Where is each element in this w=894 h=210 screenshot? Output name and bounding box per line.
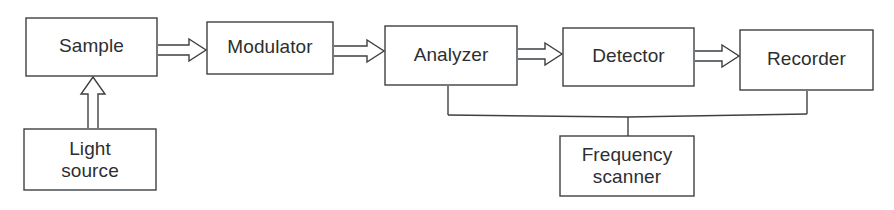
block-frequency-scanner[interactable]: Frequencyscanner bbox=[560, 136, 694, 196]
block-sample[interactable]: Sample bbox=[26, 18, 157, 76]
diagram-canvas: SampleLightsourceModulatorAnalyzerDetect… bbox=[0, 0, 894, 210]
block-sample-label: Sample bbox=[59, 35, 124, 56]
arrow-sample-to-modulator bbox=[158, 39, 206, 61]
arrow-detector-to-recorder-outline bbox=[695, 45, 739, 67]
block-frequency-scanner-label: Frequency bbox=[582, 144, 673, 165]
arrow-light-source-to-sample bbox=[81, 77, 105, 128]
arrow-analyzer-to-detector bbox=[518, 43, 562, 65]
arrow-analyzer-to-detector-outline bbox=[518, 43, 562, 65]
arrow-detector-to-recorder bbox=[695, 45, 739, 67]
arrow-sample-to-modulator-outline bbox=[158, 39, 206, 61]
block-modulator[interactable]: Modulator bbox=[207, 22, 333, 74]
block-recorder-label: Recorder bbox=[767, 48, 847, 69]
block-light-source[interactable]: Lightsource bbox=[24, 129, 156, 190]
block-frequency-scanner-label-line2: scanner bbox=[593, 166, 662, 187]
block-detector[interactable]: Detector bbox=[563, 28, 694, 86]
block-detector-label: Detector bbox=[592, 45, 665, 66]
arrow-light-source-to-sample-outline bbox=[81, 77, 105, 128]
arrow-modulator-to-analyzer bbox=[334, 40, 384, 62]
block-light-source-label-line2: source bbox=[61, 160, 119, 181]
block-analyzer[interactable]: Analyzer bbox=[385, 26, 517, 85]
connector-bus-horizontal bbox=[448, 114, 807, 117]
block-analyzer-label: Analyzer bbox=[414, 44, 489, 65]
block-modulator-label: Modulator bbox=[227, 36, 313, 57]
block-recorder[interactable]: Recorder bbox=[740, 30, 873, 90]
connectors-layer bbox=[448, 86, 807, 136]
block-diagram: SampleLightsourceModulatorAnalyzerDetect… bbox=[0, 0, 894, 210]
block-light-source-label: Light bbox=[69, 138, 111, 159]
arrow-modulator-to-analyzer-outline bbox=[334, 40, 384, 62]
